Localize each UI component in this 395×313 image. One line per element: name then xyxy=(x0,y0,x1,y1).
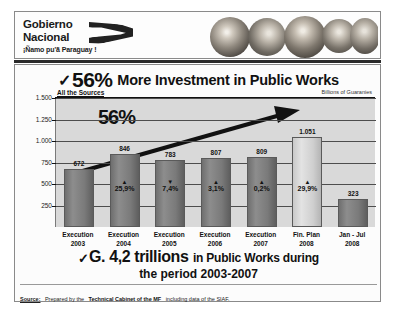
x-axis-label-line: 2008 xyxy=(327,240,377,249)
bar-value-label: 672 xyxy=(57,160,101,167)
growth-indicator: ▼7,4% xyxy=(148,179,192,193)
source-note: Source: Prepared by the Technical Cabine… xyxy=(20,284,377,298)
x-axis-label-line: Jan - Jul xyxy=(327,231,377,240)
photo-thumb xyxy=(350,18,378,54)
bar-value-label: 807 xyxy=(194,149,238,156)
growth-indicator: ▲0,2% xyxy=(240,179,284,193)
check-icon: ✓ xyxy=(58,71,71,90)
chart-bar[interactable] xyxy=(338,199,368,227)
source-text-bold: Technical Cabinet of the MF xyxy=(89,296,162,302)
growth-percent-label: 0,2% xyxy=(240,185,284,193)
x-axis-label-line: Fin. Plan xyxy=(281,231,331,240)
source-text-before: Prepared by the xyxy=(45,296,84,302)
y-axis-tick xyxy=(52,141,56,142)
bar-value-label: 809 xyxy=(240,148,284,155)
y-axis-tick-label: 1.000 xyxy=(24,137,52,144)
title-text: More Investment in Public Works xyxy=(117,72,339,88)
x-axis-label-line: Execution xyxy=(190,231,240,240)
y-axis-tick-label: 250 xyxy=(24,202,52,209)
children-photo-strip xyxy=(208,14,378,58)
x-axis-label: Execution2005 xyxy=(144,231,194,248)
y-axis-tick-label: 1.500 xyxy=(24,94,52,101)
x-axis-label: Fin. Plan2008 xyxy=(281,231,331,248)
growth-indicator: ▲3,1% xyxy=(194,179,238,193)
x-axis-label-line: 2003 xyxy=(53,240,103,249)
x-axis-label-line: Execution xyxy=(99,231,149,240)
footer-rest: in Public Works during xyxy=(193,251,319,265)
growth-percent-label: 3,1% xyxy=(194,185,238,193)
bar-value-label: 323 xyxy=(331,190,375,197)
photo-thumb xyxy=(284,16,326,58)
government-logo: Gobierno Nacional ¡Ñamo pu'ã Paraguay ! xyxy=(23,16,143,56)
x-axis-label-line: Execution xyxy=(144,231,194,240)
logo-tagline: ¡Ñamo pu'ã Paraguay ! xyxy=(23,46,143,54)
growth-percent-label: 7,4% xyxy=(148,185,192,193)
x-axis-label: Execution2004 xyxy=(99,231,149,248)
gridline xyxy=(56,98,376,99)
photo-thumb xyxy=(210,17,250,57)
footer-period: the period 2003-2007 xyxy=(15,266,382,283)
header-band: Gobierno Nacional ¡Ñamo pu'ã Paraguay ! xyxy=(14,11,381,59)
y-axis-tick xyxy=(52,98,56,99)
y-axis-tick-label: 750 xyxy=(24,159,52,166)
chart-units-note: Billions of Guaranies xyxy=(322,89,372,95)
growth-percent-label: 29,9% xyxy=(285,185,329,193)
x-axis-label-line: 2005 xyxy=(144,240,194,249)
growth-indicator: ▲29,9% xyxy=(285,179,329,193)
y-axis-tick xyxy=(52,120,56,121)
x-axis-label-line: 2007 xyxy=(236,240,286,249)
growth-callout: 56% xyxy=(98,106,135,129)
growth-percent-label: 25,9% xyxy=(103,185,147,193)
footer-claim: ✓G. 4,2 trillions in Public Works during… xyxy=(15,248,382,283)
bar-value-label: 783 xyxy=(148,151,192,158)
bar-value-label: 846 xyxy=(103,145,147,152)
bar-chart: All the Sources Billions of Guaranies 56… xyxy=(19,89,378,249)
x-axis-label-line: 2004 xyxy=(99,240,149,249)
chart-bar[interactable] xyxy=(155,160,185,227)
source-label: Source: xyxy=(20,296,40,302)
x-axis-label-line: Execution xyxy=(236,231,286,240)
slide-root: Gobierno Nacional ¡Ñamo pu'ã Paraguay ! … xyxy=(0,0,395,313)
plot-area: 56% 2505007501.0001.2501.500672846▲25,9%… xyxy=(55,98,375,227)
x-axis-label-line: Execution xyxy=(53,231,103,240)
check-icon-footer: ✓ xyxy=(78,251,89,266)
gridline xyxy=(56,141,376,142)
y-axis-tick xyxy=(52,184,56,185)
y-axis-tick xyxy=(52,163,56,164)
photo-thumb xyxy=(248,18,286,56)
chart-bar[interactable] xyxy=(64,169,94,227)
header-divider xyxy=(14,60,381,63)
y-axis-tick-label: 1.250 xyxy=(24,116,52,123)
x-axis-label-line: 2008 xyxy=(281,240,331,249)
x-axis-label: Jan - Jul2008 xyxy=(327,231,377,248)
ribbon-flag-icon xyxy=(89,20,135,46)
content-panel: ✓56%More Investment in Public Works All … xyxy=(14,64,381,302)
chart-sources-note: All the Sources xyxy=(57,89,104,97)
x-axis-label: Execution2003 xyxy=(53,231,103,248)
y-axis-tick xyxy=(52,206,56,207)
x-axis-label: Execution2006 xyxy=(190,231,240,248)
gridline xyxy=(56,120,376,121)
x-axis-label-line: 2006 xyxy=(190,240,240,249)
footer-amount: G. 4,2 trillions xyxy=(89,248,188,265)
source-text-after: including data of the SIAF. xyxy=(166,296,230,302)
bar-value-label: 1.051 xyxy=(285,128,329,135)
growth-indicator: ▲25,9% xyxy=(103,179,147,193)
y-axis-tick-label: 500 xyxy=(24,180,52,187)
x-axis-label: Execution2007 xyxy=(236,231,286,248)
